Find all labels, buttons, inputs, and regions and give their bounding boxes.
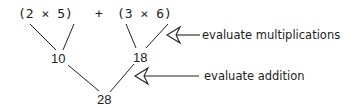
right-group-expression: (3 × 6) (117, 6, 172, 21)
label-evaluate-addition: evaluate addition (204, 69, 305, 83)
edge-5-to-10 (63, 24, 74, 50)
node-right-product: 18 (133, 50, 147, 65)
arrow-multiplications-icon (167, 27, 200, 43)
node-left-product: 10 (51, 51, 65, 66)
node-sum: 28 (97, 92, 111, 107)
left-group-expression: (2 × 5) (18, 6, 73, 21)
label-evaluate-multiplications: evaluate multiplications (202, 28, 340, 42)
expression-tree-diagram: (2 × 5) + (3 × 6) 10 18 28 evaluate mult… (0, 0, 364, 108)
plus-operator: + (95, 6, 103, 21)
edge-18-to-28 (110, 64, 134, 92)
arrow-addition-icon (135, 68, 199, 84)
edge-6-to-18 (146, 24, 168, 48)
edge-3-to-18 (126, 24, 136, 48)
edge-2-to-10 (30, 24, 56, 50)
edge-10-to-28 (68, 65, 99, 91)
